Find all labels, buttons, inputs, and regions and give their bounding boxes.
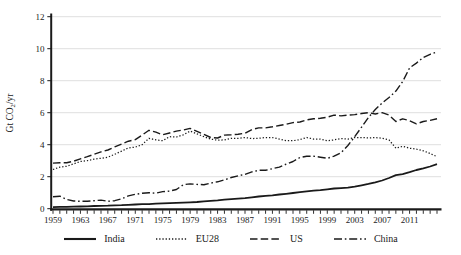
svg-text:1995: 1995 [291, 215, 310, 225]
svg-text:4: 4 [40, 140, 45, 150]
x-tick-labels: 1959196319671971197519791983198719911995… [44, 210, 437, 224]
y-tick-labels: 024681012 [36, 12, 52, 214]
legend-label-india: India [104, 234, 125, 244]
svg-text:1987: 1987 [236, 215, 255, 225]
svg-text:1979: 1979 [181, 215, 200, 225]
svg-text:0: 0 [40, 204, 45, 214]
legend-item-india: India [63, 234, 125, 244]
series-line-eu28 [53, 131, 437, 169]
svg-text:1991: 1991 [263, 215, 281, 225]
gridlines [51, 17, 441, 177]
legend-item-china: China [333, 234, 398, 244]
svg-text:2011: 2011 [401, 215, 419, 225]
series-line-us [53, 113, 437, 163]
svg-text:8: 8 [40, 76, 45, 86]
series-line-india [53, 164, 437, 207]
legend-line-dotted-icon [155, 235, 189, 243]
svg-text:1971: 1971 [126, 215, 144, 225]
svg-text:1967: 1967 [99, 215, 118, 225]
svg-text:12: 12 [36, 12, 45, 22]
legend-label-china: China [374, 234, 398, 244]
emissions-chart: 0246810121959196319671971197519791983198… [0, 0, 461, 255]
svg-text:2003: 2003 [346, 215, 365, 225]
y-axis-title: Gt CO2/yr [5, 93, 16, 133]
legend-line-dashdot-icon [333, 235, 367, 243]
svg-text:2: 2 [40, 172, 45, 182]
svg-text:2007: 2007 [373, 215, 392, 225]
legend-line-dashed-icon [249, 235, 283, 243]
legend-item-us: US [249, 234, 303, 244]
legend-label-eu28: EU28 [196, 234, 219, 244]
svg-text:10: 10 [36, 44, 46, 54]
svg-text:1999: 1999 [318, 215, 337, 225]
svg-text:1959: 1959 [44, 215, 63, 225]
legend-item-eu28: EU28 [155, 234, 219, 244]
svg-text:1983: 1983 [209, 215, 228, 225]
legend-line-solid-icon [63, 235, 97, 243]
svg-text:1975: 1975 [154, 215, 173, 225]
svg-text:6: 6 [40, 108, 45, 118]
series-line-china [53, 52, 437, 201]
chart-legend: India EU28 US China [0, 230, 461, 248]
legend-label-us: US [290, 234, 303, 244]
svg-text:1963: 1963 [71, 215, 90, 225]
chart-canvas: 0246810121959196319671971197519791983198… [0, 0, 461, 255]
